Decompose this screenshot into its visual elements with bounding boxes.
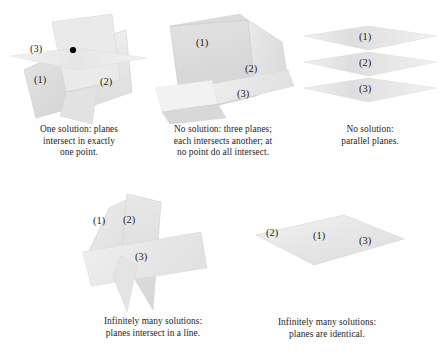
plane-label-1: (1) [359,32,371,42]
plane-label-1: (1) [196,38,208,48]
caption-line: no point do all intersect. [140,147,306,159]
plane-label-2: (2) [245,64,257,74]
diagram-intersect-in-line: (1) (2) (3) [75,190,230,318]
plane-label-3: (3) [135,252,147,262]
caption-no-solution-three-planes: No solution: three planes; each intersec… [140,124,306,159]
plane-identical-shape [256,215,404,265]
panel-one-point: (3) (1) (2) One solution: planes interse… [8,8,148,168]
panel-infinitely-many-identical: (2) (1) (3) Infinitely many solutions: p… [240,205,415,355]
caption-line: parallel planes. [302,136,438,148]
caption-line: one point. [6,147,152,159]
identical-planes-svg [240,205,415,295]
caption-line: No solution: three planes; [140,124,306,136]
panel-no-solution-three-planes: (1) (2) (3) No solution: three planes; e… [148,6,298,168]
plane-label-2: (2) [100,77,112,87]
caption-line: planes are identical. [248,329,406,341]
plane-label-2: (2) [266,228,278,238]
caption-infinitely-many-line: Infinitely many solutions: planes inters… [74,316,232,339]
diagram-one-point: (3) (1) (2) [8,8,148,128]
one-point-svg [8,8,148,128]
caption-no-solution-parallel: No solution: parallel planes. [302,124,438,147]
diagram-identical-planes: (2) (1) (3) [240,205,415,295]
caption-line: intersect in exactly [6,136,152,148]
plane-label-3: (3) [359,84,371,94]
no-solution-svg [148,6,298,128]
diagram-no-solution-three-planes: (1) (2) (3) [148,6,298,128]
caption-infinitely-many-identical: Infinitely many solutions: planes are id… [248,317,406,340]
diagram-parallel-planes: (1) (2) (3) [300,18,440,118]
panel-no-solution-parallel: (1) (2) (3) No solution: parallel planes… [300,18,440,168]
plane-label-1: (1) [93,216,105,226]
plane-label-3: (3) [359,236,371,246]
caption-line: One solution: planes [6,124,152,136]
caption-line: No solution: [302,124,438,136]
caption-one-point: One solution: planes intersect in exactl… [6,124,152,159]
plane-label-2: (2) [359,58,371,68]
plane-label-2: (2) [123,215,135,225]
plane-label-1: (1) [34,75,46,85]
planes-intersection-figure: (3) (1) (2) One solution: planes interse… [0,0,443,362]
caption-line: planes intersect in a line. [74,328,232,340]
caption-line: Infinitely many solutions: [248,317,406,329]
plane-label-3: (3) [30,44,42,54]
plane-label-3: (3) [237,89,249,99]
intersect-line-svg [75,190,230,318]
plane-label-1: (1) [313,231,325,241]
panel-infinitely-many-line: (1) (2) (3) Infinitely many solutions: p… [75,190,230,355]
intersection-dot [70,47,76,53]
caption-line: each intersects another; at [140,136,306,148]
caption-line: Infinitely many solutions: [74,316,232,328]
